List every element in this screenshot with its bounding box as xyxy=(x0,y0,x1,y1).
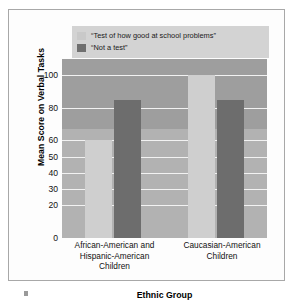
bar-group-1-series-1 xyxy=(217,100,244,238)
y-axis-title: Mean Score on Verbal Tasks xyxy=(36,27,46,187)
legend-item-1: “Not a test” xyxy=(77,42,265,53)
x-axis-group-label-line: Children xyxy=(168,251,276,262)
bar-group-0-series-0 xyxy=(85,140,112,238)
legend-item-0: “Test of how good at school problems” xyxy=(77,30,265,41)
page-corner-mark xyxy=(24,291,28,296)
x-axis-title: Ethnic Group xyxy=(62,290,267,300)
plot-area xyxy=(62,59,267,238)
x-axis-group-label-1: Caucasian-AmericanChildren xyxy=(168,240,276,261)
legend-swatch-light-gray-icon xyxy=(77,32,86,40)
bar-group-0-series-1 xyxy=(114,100,141,238)
x-axis-group-label-0: African-American andHispanic-AmericanChi… xyxy=(58,240,171,272)
x-axis-group-label-line: Hispanic-American xyxy=(58,251,171,262)
y-tick-label-60: 60 xyxy=(48,135,58,145)
gridline-100 xyxy=(62,75,267,76)
legend-label-1: “Not a test” xyxy=(91,43,128,52)
x-axis-group-label-line: Children xyxy=(58,261,171,272)
y-tick-label-40: 40 xyxy=(48,168,58,178)
figure-frame: “Test of how good at school problems” “N… xyxy=(8,9,285,281)
y-tick-label-50: 50 xyxy=(48,152,58,162)
chart-legend: “Test of how good at school problems” “N… xyxy=(72,26,269,58)
y-tick-label-30: 30 xyxy=(48,184,58,194)
y-tick-label-80: 80 xyxy=(48,103,58,113)
y-tick-label-100: 100 xyxy=(44,70,58,80)
x-axis-group-label-line: Caucasian-American xyxy=(168,240,276,251)
plot-wrapper: 0203040506080100 African-American andHis… xyxy=(62,59,267,238)
bar-group-1-series-0 xyxy=(188,75,215,238)
x-axis-group-label-line: African-American and xyxy=(58,240,171,251)
legend-swatch-dark-gray-icon xyxy=(77,44,86,52)
y-tick-label-20: 20 xyxy=(48,200,58,210)
legend-label-0: “Test of how good at school problems” xyxy=(91,31,216,40)
